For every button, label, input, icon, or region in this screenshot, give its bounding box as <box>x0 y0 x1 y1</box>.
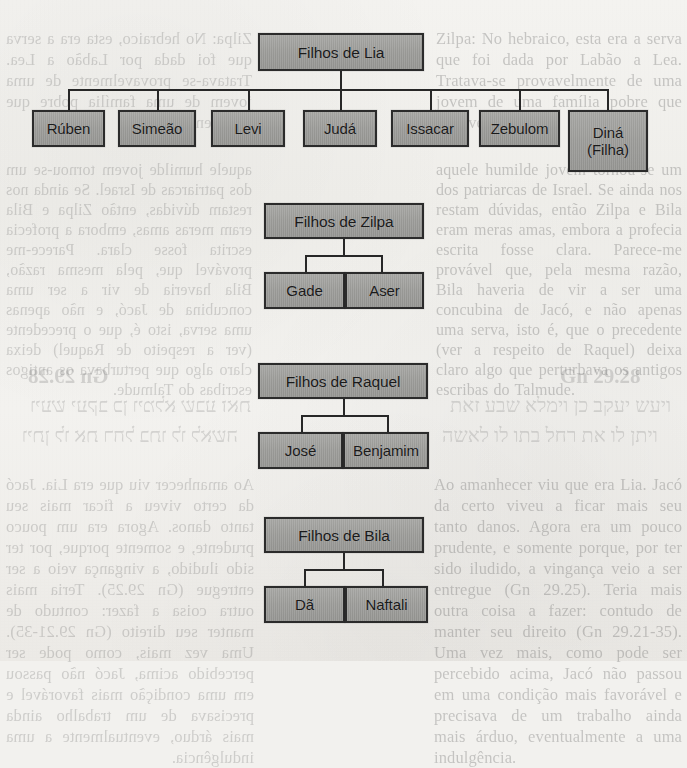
node-label: José <box>283 442 318 459</box>
connector-raquel-bus <box>301 415 389 417</box>
node-label: Aser <box>367 282 401 299</box>
connector-lia-bus <box>68 89 608 91</box>
connector-bila-drop-1 <box>304 569 306 586</box>
connector-raquel-drop-1 <box>301 415 303 432</box>
node-label: Gade <box>284 282 324 299</box>
node-label: Filhos de Raquel <box>284 373 403 390</box>
node-label: Issacar <box>404 120 456 137</box>
connector-bila-drop-2 <box>382 569 384 586</box>
connector-lia-drop-1 <box>68 89 70 110</box>
node-label: Levi <box>232 120 263 137</box>
node-da[interactable]: Dã <box>264 586 345 623</box>
connector-zilpa-drop-2 <box>381 255 383 272</box>
node-filhos-de-zilpa-root[interactable]: Filhos de Zilpa <box>264 203 424 239</box>
connector-zilpa-bus <box>305 255 383 257</box>
node-dina[interactable]: Diná (Filha) <box>568 110 648 172</box>
node-gade[interactable]: Gade <box>264 272 345 309</box>
node-simeao[interactable]: Simeão <box>118 110 196 147</box>
node-label: Filhos de Zilpa <box>292 213 395 230</box>
node-juda[interactable]: Judá <box>303 110 377 147</box>
node-benjamim[interactable]: Benjamim <box>343 432 429 469</box>
connector-lia-drop-5 <box>430 89 432 110</box>
node-label-line2: (Filha) <box>585 141 631 158</box>
connector-lia-drop-3 <box>248 89 250 110</box>
connector-lia-drop-4 <box>340 89 342 110</box>
node-ruben[interactable]: Rúben <box>32 110 105 147</box>
node-filhos-de-lia-root[interactable]: Filhos de Lia <box>258 33 424 71</box>
node-label: Simeão <box>130 120 184 137</box>
connector-zilpa-drop-1 <box>305 255 307 272</box>
connector-lia-drop-6 <box>519 89 521 110</box>
node-label: Benjamim <box>351 442 421 459</box>
connector-lia-drop-7 <box>607 89 609 110</box>
node-naftali[interactable]: Naftali <box>345 586 428 623</box>
connector-raquel-drop-2 <box>387 415 389 432</box>
connector-bila-bus <box>304 569 384 571</box>
node-jose[interactable]: José <box>258 432 343 469</box>
node-label: Filhos de Lia <box>296 44 387 61</box>
node-label: Dã <box>293 596 316 613</box>
node-filhos-de-bila-root[interactable]: Filhos de Bila <box>264 517 424 553</box>
connector-lia-root-stem <box>340 71 342 91</box>
node-label-line1: Diná <box>591 124 625 141</box>
node-aser[interactable]: Aser <box>345 272 424 309</box>
node-label: Zebulom <box>489 120 551 137</box>
node-label: Rúben <box>45 120 93 137</box>
node-filhos-de-raquel-root[interactable]: Filhos de Raquel <box>258 363 428 399</box>
node-zebulom[interactable]: Zebulom <box>479 110 560 147</box>
node-label: Filhos de Bila <box>296 527 392 544</box>
node-issacar[interactable]: Issacar <box>391 110 469 147</box>
node-label: Naftali <box>364 596 410 613</box>
node-label: Judá <box>322 120 358 137</box>
connector-lia-drop-2 <box>157 89 159 110</box>
node-levi[interactable]: Levi <box>211 110 285 147</box>
